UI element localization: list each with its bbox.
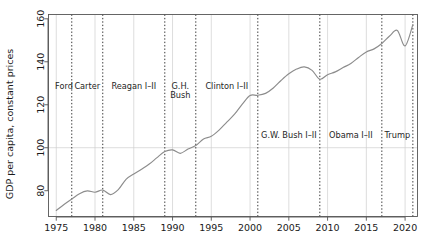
term-label-carter: Carter: [74, 81, 100, 91]
term-label-trump: Trump: [384, 130, 411, 140]
y-tick-label-160: 160: [35, 10, 46, 28]
term-label-g-w-bush-i-ii: G.W. Bush I–II: [261, 130, 317, 140]
x-tick-label-1995: 1995: [199, 222, 223, 233]
term-label-ford: Ford: [55, 81, 73, 91]
term-label-obama-i-ii: Obama I–II: [329, 130, 373, 140]
x-tick-label-2010: 2010: [315, 222, 339, 233]
term-label-clinton-i-ii: Clinton I–II: [205, 81, 248, 91]
x-tick-label-1975: 1975: [44, 222, 68, 233]
chart-figure: 80100120140160 1975198019851990199520002…: [0, 0, 433, 250]
x-tick-label-2000: 2000: [238, 222, 262, 233]
chart-background: [0, 0, 433, 250]
x-tick-label-2020: 2020: [393, 222, 417, 233]
gdp-per-capita-line-chart: 80100120140160 1975198019851990199520002…: [0, 0, 433, 250]
y-tick-label-140: 140: [35, 53, 46, 71]
y-axis-title: GDP per capita, constant prices: [4, 49, 15, 199]
term-label-g-h-bush: G.H.: [172, 81, 190, 91]
y-tick-label-80: 80: [35, 185, 46, 197]
y-tick-label-100: 100: [35, 139, 46, 157]
x-tick-label-1990: 1990: [160, 222, 184, 233]
term-label-reagan-i-ii: Reagan I–II: [111, 81, 156, 91]
x-tick-label-2005: 2005: [277, 222, 301, 233]
term-label-g-h-bush: Bush: [170, 90, 190, 100]
x-tick-label-1985: 1985: [122, 222, 146, 233]
y-tick-label-120: 120: [35, 96, 46, 114]
x-tick-label-2015: 2015: [354, 222, 378, 233]
x-tick-label-1980: 1980: [83, 222, 107, 233]
